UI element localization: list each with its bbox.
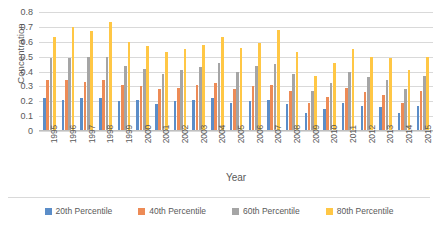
- x-axis-tick-cell: 2010: [320, 133, 339, 171]
- bar[interactable]: [202, 45, 205, 131]
- bar[interactable]: [180, 70, 183, 131]
- bar[interactable]: [68, 58, 71, 131]
- x-axis-tick-cell: 2006: [245, 133, 264, 171]
- bar[interactable]: [218, 63, 221, 131]
- y-axis-tick-label: 0.5: [20, 52, 33, 62]
- bar[interactable]: [43, 98, 46, 131]
- x-axis-tick-cell: 1996: [59, 133, 78, 171]
- bar[interactable]: [389, 58, 392, 131]
- x-axis-tick-cell: 2009: [301, 133, 320, 171]
- x-axis-tick-cell: 1999: [115, 133, 134, 171]
- clustered-column-chart: Concentration 0.80.70.60.50.40.30.20.10 …: [0, 0, 438, 225]
- bar[interactable]: [240, 48, 243, 131]
- y-axis-tick-label: 0.2: [20, 96, 33, 106]
- bar-group: [189, 12, 208, 131]
- bar[interactable]: [155, 104, 158, 131]
- bar[interactable]: [109, 22, 112, 131]
- bar[interactable]: [87, 57, 90, 131]
- bar[interactable]: [128, 42, 131, 131]
- bar[interactable]: [367, 77, 370, 131]
- bar[interactable]: [417, 106, 420, 131]
- bar[interactable]: [90, 31, 93, 131]
- x-axis-tick-cell: 2008: [283, 133, 302, 171]
- legend-item-label: 40th Percentile: [149, 206, 206, 216]
- bar-groups: [39, 12, 433, 131]
- bar[interactable]: [323, 109, 326, 131]
- legend-item[interactable]: 40th Percentile: [138, 206, 206, 216]
- bar[interactable]: [308, 103, 311, 131]
- x-axis-tick-cell: 1997: [77, 133, 96, 171]
- y-axis-tick-label: 0.1: [20, 111, 33, 121]
- bar[interactable]: [314, 76, 317, 131]
- bar[interactable]: [236, 72, 239, 132]
- bar[interactable]: [230, 103, 233, 131]
- bar[interactable]: [136, 100, 139, 131]
- bar[interactable]: [221, 37, 224, 131]
- bar[interactable]: [162, 74, 165, 131]
- bar[interactable]: [361, 106, 364, 131]
- bar[interactable]: [352, 49, 355, 131]
- bar[interactable]: [118, 101, 121, 131]
- bar[interactable]: [211, 98, 214, 131]
- legend-swatch-icon: [326, 208, 333, 215]
- bar[interactable]: [267, 100, 270, 131]
- bar[interactable]: [292, 74, 295, 131]
- bar[interactable]: [333, 63, 336, 131]
- bar[interactable]: [165, 52, 168, 131]
- bar[interactable]: [99, 98, 102, 131]
- bar[interactable]: [62, 100, 65, 131]
- x-axis-tick-cell: 2015: [413, 133, 432, 171]
- bar[interactable]: [408, 70, 411, 131]
- bar[interactable]: [124, 66, 127, 131]
- bar-group: [40, 12, 59, 131]
- bar[interactable]: [274, 64, 277, 131]
- bar[interactable]: [252, 86, 255, 131]
- legend-item[interactable]: 60th Percentile: [232, 206, 300, 216]
- bar-group: [264, 12, 283, 131]
- bar-group: [283, 12, 302, 131]
- bar[interactable]: [296, 52, 299, 131]
- bar[interactable]: [258, 43, 261, 131]
- bar[interactable]: [348, 72, 351, 132]
- chart-legend: 20th Percentile40th Percentile60th Perce…: [8, 203, 430, 219]
- bar[interactable]: [398, 113, 401, 131]
- bar[interactable]: [80, 98, 83, 131]
- legend-item[interactable]: 80th Percentile: [326, 206, 394, 216]
- bar[interactable]: [249, 101, 252, 131]
- bar[interactable]: [370, 57, 373, 131]
- bar-group: [339, 12, 358, 131]
- legend-swatch-icon: [45, 208, 52, 215]
- bar[interactable]: [286, 104, 289, 131]
- legend-item-label: 60th Percentile: [243, 206, 300, 216]
- bar-group: [77, 12, 96, 131]
- bar[interactable]: [106, 57, 109, 131]
- bar[interactable]: [277, 30, 280, 131]
- x-axis-tick-cell: 2012: [357, 133, 376, 171]
- bar[interactable]: [199, 67, 202, 131]
- bar[interactable]: [72, 27, 75, 131]
- legend-item[interactable]: 20th Percentile: [45, 206, 113, 216]
- bar[interactable]: [184, 49, 187, 131]
- bar[interactable]: [196, 85, 199, 131]
- bar[interactable]: [423, 76, 426, 131]
- bar[interactable]: [192, 100, 195, 131]
- bar[interactable]: [146, 46, 149, 131]
- legend-swatch-icon: [138, 208, 145, 215]
- x-axis-tick-cell: 2013: [376, 133, 395, 171]
- bar[interactable]: [426, 57, 429, 131]
- x-axis-tick-cell: 2003: [189, 133, 208, 171]
- bar[interactable]: [84, 82, 87, 131]
- bar[interactable]: [379, 107, 382, 131]
- bar[interactable]: [255, 66, 258, 131]
- bar[interactable]: [140, 86, 143, 131]
- bar[interactable]: [53, 37, 56, 131]
- bar[interactable]: [174, 101, 177, 131]
- bar[interactable]: [50, 58, 53, 131]
- bar[interactable]: [342, 103, 345, 131]
- bar[interactable]: [143, 69, 146, 131]
- y-axis-tick-labels: 0.80.70.60.50.40.30.20.10: [0, 12, 36, 131]
- bar[interactable]: [305, 113, 308, 131]
- legend-item-label: 20th Percentile: [56, 206, 113, 216]
- legend-divider: [8, 197, 430, 198]
- bar-group: [115, 12, 134, 131]
